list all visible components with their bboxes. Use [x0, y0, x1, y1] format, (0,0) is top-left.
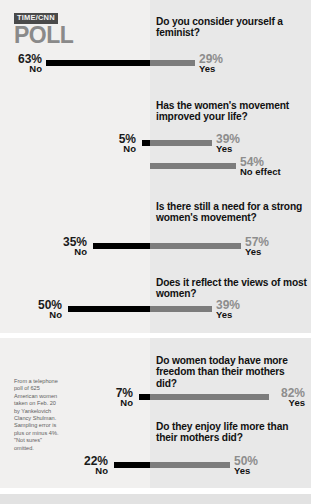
methodology-footnote: From a telephone poll of 625 American wo… — [14, 378, 60, 452]
label-q2-no: 5% No — [94, 134, 136, 154]
label-q3-no: 35% No — [44, 237, 87, 257]
label-q5-no: 7% No — [90, 388, 133, 408]
masthead: TIME/CNN POLL — [14, 6, 73, 46]
bar-q3-yes — [150, 243, 241, 249]
bar-q1-yes — [150, 60, 195, 66]
label-q2-noeffect: 54% No effect — [240, 157, 281, 177]
question-text-1: Do you consider yourself a feminist? — [156, 16, 308, 39]
label-q6-no: 22% No — [64, 456, 108, 476]
label-q4-no: 50% No — [18, 300, 62, 320]
question-text-4: Does it reflect the views of most women? — [156, 277, 308, 300]
bar-q2-no — [142, 140, 150, 146]
label-q2-yes: 39% Yes — [216, 134, 240, 154]
poll-title: POLL — [14, 25, 73, 46]
name-q5-yes: Yes — [249, 398, 305, 408]
bar-q3-no — [93, 243, 150, 249]
label-q4-yes: 39% Yes — [216, 300, 240, 320]
label-q1-no: 63% No — [0, 54, 42, 74]
name-q2-no: No — [94, 144, 136, 154]
bar-q6-no — [114, 462, 150, 468]
bar-q4-no — [68, 306, 150, 312]
bar-q4-yes — [150, 306, 212, 312]
question-text-3: Is there still a need for a strong women… — [156, 201, 308, 224]
footer-strip — [0, 494, 311, 504]
bar-q2-yes — [150, 140, 212, 146]
question-text-5: Do women today have more freedom than th… — [156, 355, 308, 389]
panel-left-wash — [0, 0, 150, 333]
bar-q1-no — [46, 60, 150, 66]
label-q6-yes: 50% Yes — [234, 456, 258, 476]
label-q1-yes: 29% Yes — [199, 54, 223, 74]
label-q3-yes: 57% Yes — [245, 237, 269, 257]
name-q2-noeffect: No effect — [240, 167, 281, 177]
label-q5-yes: 82% Yes — [249, 388, 305, 408]
bar-q5-no — [139, 394, 150, 400]
question-text-2: Has the women's movement improved your l… — [156, 100, 308, 123]
bar-q2-noeffect — [150, 163, 236, 169]
question-text-6: Do they enjoy life more than their mothe… — [156, 421, 308, 444]
bar-q6-yes — [150, 462, 230, 468]
name-q5-no: No — [90, 398, 133, 408]
